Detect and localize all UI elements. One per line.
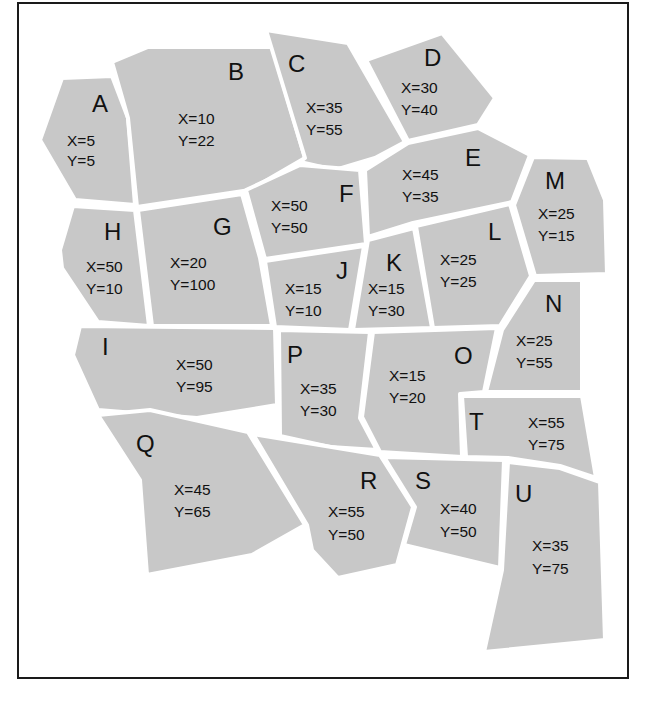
region-h-y: Y=10 [86, 280, 123, 297]
region-u-x: X=35 [532, 537, 569, 554]
region-q: Q X=45 Y=65 [98, 410, 305, 575]
region-p: P X=35 Y=30 [279, 330, 377, 450]
region-d-x: X=30 [401, 79, 438, 96]
region-d-y: Y=40 [401, 101, 438, 118]
region-q-letter: Q [136, 430, 155, 457]
region-l-letter: L [488, 218, 501, 245]
region-n-x: X=25 [516, 332, 553, 349]
region-s-letter: S [415, 467, 431, 494]
region-i-letter: I [102, 333, 109, 360]
region-l-x: X=25 [440, 251, 477, 268]
region-q-x: X=45 [174, 481, 211, 498]
region-f-letter: F [339, 180, 354, 207]
region-f-y: Y=50 [271, 219, 308, 236]
region-h-x: X=50 [86, 258, 123, 275]
region-b-letter: B [228, 58, 244, 85]
region-p-y: Y=30 [300, 402, 337, 419]
region-m-x: X=25 [538, 205, 575, 222]
region-j: J X=15 Y=10 [265, 246, 364, 330]
region-a-letter: A [92, 90, 108, 117]
region-g-y: Y=100 [170, 276, 216, 293]
region-c-letter: C [288, 50, 305, 77]
region-k-letter: K [386, 249, 402, 276]
region-m-y: Y=15 [538, 227, 575, 244]
region-r-y: Y=50 [328, 526, 365, 543]
region-m-letter: M [545, 167, 565, 194]
region-g-letter: G [213, 213, 232, 240]
region-k-y: Y=30 [368, 302, 405, 319]
region-i-x: X=50 [176, 356, 213, 373]
region-q-y: Y=65 [174, 503, 211, 520]
region-n-y: Y=55 [516, 354, 553, 371]
region-r-letter: R [360, 467, 377, 494]
region-i-y: Y=95 [176, 378, 213, 395]
region-l-y: Y=25 [440, 273, 477, 290]
region-a-x: X=5 [67, 132, 95, 149]
region-u-y: Y=75 [532, 560, 569, 577]
region-n-letter: N [545, 290, 562, 317]
region-h: H X=50 Y=10 [60, 206, 149, 326]
region-s-y: Y=50 [440, 523, 477, 540]
region-t-y: Y=75 [528, 436, 565, 453]
region-t-x: X=55 [528, 414, 565, 431]
region-m: M X=25 Y=15 [514, 157, 607, 276]
region-d-letter: D [424, 44, 441, 71]
region-i: I X=50 Y=95 [73, 326, 277, 418]
region-g-x: X=20 [170, 254, 207, 271]
region-u-letter: U [515, 480, 532, 507]
region-b-x: X=10 [178, 110, 215, 127]
region-o-letter: O [454, 342, 473, 369]
region-e-y: Y=35 [402, 188, 439, 205]
region-p-letter: P [287, 341, 303, 368]
region-b-y: Y=22 [178, 132, 215, 149]
region-c-y: Y=55 [306, 121, 343, 138]
region-k-x: X=15 [368, 280, 405, 297]
region-p-x: X=35 [300, 380, 337, 397]
region-j-y: Y=10 [285, 302, 322, 319]
region-o-y: Y=20 [389, 389, 426, 406]
region-j-letter: J [336, 257, 348, 284]
region-e-x: X=45 [402, 166, 439, 183]
region-o-x: X=15 [389, 367, 426, 384]
region-j-x: X=15 [285, 280, 322, 297]
region-f-x: X=50 [271, 197, 308, 214]
region-h-letter: H [104, 218, 121, 245]
region-t-letter: T [469, 408, 484, 435]
region-c-x: X=35 [306, 99, 343, 116]
region-a-y: Y=5 [67, 152, 95, 169]
region-s-x: X=40 [440, 500, 477, 517]
region-map: A X=5 Y=5 B X=10 Y=22 C X=35 Y=55 D X=30… [0, 0, 648, 706]
region-r-x: X=55 [328, 503, 365, 520]
region-e-letter: E [465, 144, 481, 171]
